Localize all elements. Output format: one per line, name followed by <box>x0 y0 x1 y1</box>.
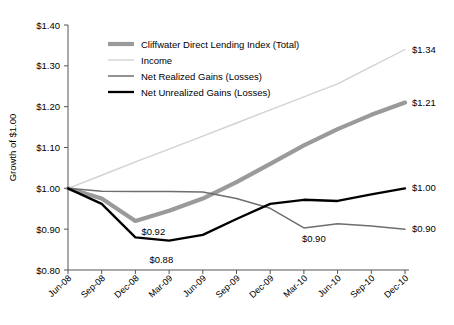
y-axis-tick-label: $0.80 <box>36 265 60 276</box>
data-point-label: $0.90 <box>302 233 326 244</box>
data-point-label: $1.21 <box>412 97 436 108</box>
legend-label: Cliffwater Direct Lending Index (Total) <box>141 39 299 50</box>
y-axis-tick-label: $0.90 <box>36 224 60 235</box>
y-axis-title-label: Growth of $1.00 <box>7 114 18 182</box>
y-axis-title: Growth of $1.00 <box>7 114 18 182</box>
y-axis-tick-label: $1.30 <box>36 60 60 71</box>
data-point-label: $0.90 <box>412 223 436 234</box>
y-axis-tick-label: $1.00 <box>36 183 60 194</box>
legend-label: Net Realized Gains (Losses) <box>141 71 262 82</box>
chart-container: $0.80$0.90$1.00$1.10$1.20$1.30$1.40 Jun-… <box>0 0 454 325</box>
line-chart: $0.80$0.90$1.00$1.10$1.20$1.30$1.40 Jun-… <box>0 0 454 325</box>
data-point-label: $1.34 <box>412 44 436 55</box>
legend-label: Income <box>141 55 172 66</box>
y-axis-tick-label: $1.10 <box>36 142 60 153</box>
data-point-label: $0.92 <box>141 226 165 237</box>
y-axis-tick-label: $1.20 <box>36 101 60 112</box>
y-axis-tick-label: $1.40 <box>36 20 60 31</box>
data-point-label: $1.00 <box>412 182 436 193</box>
legend-label: Net Unrealized Gains (Losses) <box>141 87 270 98</box>
data-point-label: $0.88 <box>149 254 173 265</box>
